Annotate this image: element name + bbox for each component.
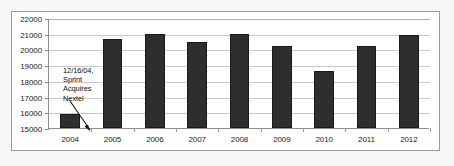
- y-axis-label-22000: 22000: [20, 15, 42, 24]
- y-axis-label-21000: 21000: [20, 30, 42, 39]
- x-axis-label-2006: 2006: [146, 135, 163, 144]
- bar-2011: [357, 46, 376, 128]
- x-axis-tick-2005: [134, 128, 135, 132]
- x-axis-label-2004: 2004: [61, 135, 78, 144]
- y-axis-tick-15000: [45, 129, 49, 130]
- x-axis-label-2011: 2011: [358, 135, 375, 144]
- x-axis-tick-2010: [345, 128, 346, 132]
- bar-2008: [230, 34, 249, 128]
- y-axis-tick-16000: [45, 113, 49, 114]
- y-axis-label-16000: 16000: [20, 109, 42, 118]
- bar-2006: [145, 34, 164, 128]
- x-axis-tick-2011: [388, 128, 389, 132]
- y-axis-tick-20000: [45, 50, 49, 51]
- bar-2012: [399, 35, 418, 128]
- annotation-line-1: Sprint: [63, 75, 109, 84]
- x-axis-tick-2006: [176, 128, 177, 132]
- x-axis-tick-2008: [261, 128, 262, 132]
- chart-screenshot: 2200021000200001900018000170001600015000…: [0, 0, 454, 166]
- y-axis-label-20000: 20000: [20, 46, 42, 55]
- x-axis-tick-2009: [303, 128, 304, 132]
- x-axis-label-2009: 2009: [273, 135, 290, 144]
- y-axis-tick-19000: [45, 66, 49, 67]
- y-axis-tick-18000: [45, 82, 49, 83]
- y-axis-label-17000: 17000: [20, 93, 42, 102]
- chart-frame: 2200021000200001900018000170001600015000…: [11, 11, 440, 151]
- annotation-line-0: 12/16/04,: [63, 66, 109, 75]
- bar-2010: [314, 71, 333, 128]
- y-axis-tick-22000: [45, 19, 49, 20]
- x-axis-label-2010: 2010: [315, 135, 332, 144]
- gridline-22000: [49, 19, 430, 20]
- annotation-arrow-icon: [68, 100, 96, 136]
- bar-2007: [187, 42, 206, 128]
- x-axis-tick-2012: [430, 128, 431, 132]
- y-axis-label-18000: 18000: [20, 77, 42, 86]
- x-axis-label-2007: 2007: [188, 135, 205, 144]
- annotation-sprint-nextel: 12/16/04, Sprint Acquires Nextel: [63, 66, 109, 103]
- y-axis-tick-21000: [45, 35, 49, 36]
- y-axis-label-19000: 19000: [20, 62, 42, 71]
- x-axis-label-2012: 2012: [400, 135, 417, 144]
- bar-2009: [272, 46, 291, 129]
- x-axis-label-2005: 2005: [104, 135, 121, 144]
- x-axis-tick-2007: [218, 128, 219, 132]
- y-axis-label-15000: 15000: [20, 125, 42, 134]
- annotation-line-3: Nextel: [63, 94, 109, 103]
- y-axis-tick-17000: [45, 98, 49, 99]
- annotation-line-2: Acquires: [63, 84, 109, 93]
- x-axis-label-2008: 2008: [231, 135, 248, 144]
